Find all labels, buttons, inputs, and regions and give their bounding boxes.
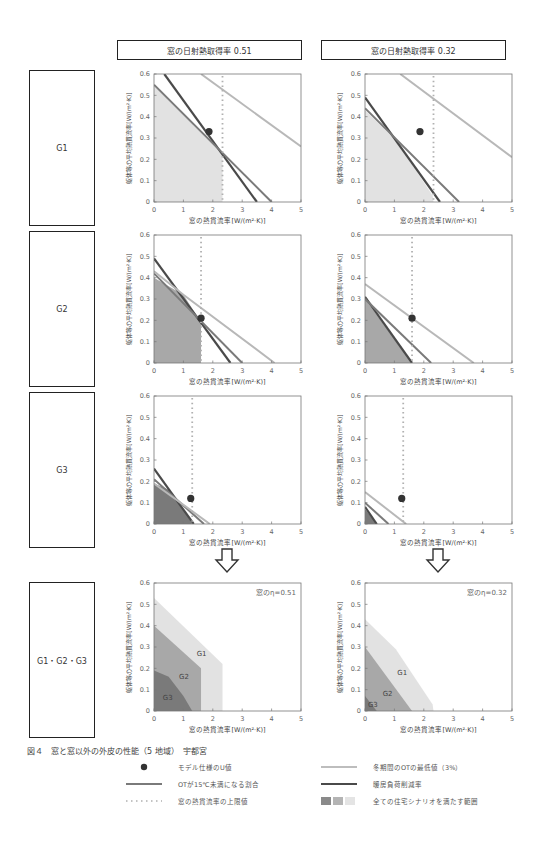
svg-text:1: 1 (181, 715, 185, 723)
svg-text:5: 5 (510, 715, 514, 723)
svg-text:0.6: 0.6 (140, 231, 150, 239)
svg-text:3: 3 (240, 528, 244, 536)
x-axis-label: 窓の熱貫流率[W/(m²·K)] (189, 725, 265, 734)
model-point-dot (398, 495, 405, 502)
svg-text:0.6: 0.6 (351, 579, 361, 587)
svg-text:0.5: 0.5 (140, 253, 150, 261)
svg-text:0.3: 0.3 (351, 456, 361, 464)
svg-text:0.1: 0.1 (140, 177, 150, 185)
x-axis-label: 窓の熱貫流率[W/(m²·K)] (189, 538, 265, 547)
dark-line-icon (321, 780, 357, 788)
svg-text:0.4: 0.4 (351, 274, 361, 282)
svg-text:0.3: 0.3 (140, 134, 150, 142)
svg-text:0: 0 (152, 715, 156, 723)
model-point-dot (205, 128, 212, 135)
svg-text:0.1: 0.1 (140, 338, 150, 346)
chart-g1-eta051: 01234500.10.20.30.40.50.6窓の熱貫流率[W/(m²·K)… (118, 68, 308, 228)
y-axis-label: 躯体等の平均熱貫流率[W/(m²·K)] (125, 92, 133, 183)
svg-text:5: 5 (510, 367, 514, 375)
y-axis-label: 躯体等の平均熱貫流率[W/(m²·K)] (336, 601, 344, 692)
chart-g3-eta051: 01234500.10.20.30.40.50.6窓の熱貫流率[W/(m²·K)… (118, 390, 308, 550)
svg-text:0.1: 0.1 (351, 338, 361, 346)
svg-text:3: 3 (240, 715, 244, 723)
svg-text:0.2: 0.2 (140, 478, 150, 486)
legend-item-feasible-range: 全ての住宅シナリオを満たす範囲 (321, 796, 478, 806)
svg-text:1: 1 (392, 715, 396, 723)
chart-svg: 01234500.10.20.30.40.50.6窓の熱貫流率[W/(m²·K)… (329, 577, 519, 742)
legend-item-ot-min: 冬期間のOTの最低値（3%） (321, 762, 462, 772)
svg-text:3: 3 (451, 206, 455, 214)
chart-svg: 01234500.10.20.30.40.50.6窓の熱貫流率[W/(m²·K)… (329, 229, 519, 394)
svg-text:5: 5 (510, 206, 514, 214)
y-axis-label: 躯体等の平均熱貫流率[W/(m²·K)] (125, 601, 133, 692)
svg-text:0: 0 (363, 715, 367, 723)
svg-text:2: 2 (211, 528, 215, 536)
chart-svg: 01234500.10.20.30.40.50.6窓の熱貫流率[W/(m²·K)… (329, 68, 519, 233)
x-axis-label: 窓の熱貫流率[W/(m²·K)] (400, 538, 476, 547)
feasible-area (154, 483, 192, 524)
svg-text:1: 1 (181, 367, 185, 375)
svg-text:1: 1 (392, 528, 396, 536)
svg-text:4: 4 (481, 206, 485, 214)
row-label-g2: G2 (29, 231, 95, 387)
down-arrow-icon (214, 548, 240, 574)
column-header-eta-051: 窓の日射熱取得率 0.51 (117, 40, 302, 60)
light-line (201, 74, 301, 147)
chart-g2-eta051: 01234500.10.20.30.40.50.6窓の熱貫流率[W/(m²·K)… (118, 229, 308, 389)
y-axis-label: 躯体等の平均熱貫流率[W/(m²·K)] (336, 92, 344, 183)
light-line-icon (321, 763, 357, 771)
chart-svg: 01234500.10.20.30.40.50.6窓の熱貫流率[W/(m²·K)… (118, 577, 308, 742)
column-header-eta-032: 窓の日射熱取得率 0.32 (321, 40, 506, 60)
svg-text:4: 4 (270, 528, 274, 536)
legend-label: OTが15℃未満になる割合 (178, 779, 259, 789)
region-label: G2 (179, 673, 189, 681)
svg-text:2: 2 (422, 367, 426, 375)
svg-text:4: 4 (270, 367, 274, 375)
svg-text:0: 0 (363, 528, 367, 536)
chart-svg: 01234500.10.20.30.40.50.6窓の熱貫流率[W/(m²·K)… (329, 390, 519, 555)
svg-text:2: 2 (211, 206, 215, 214)
svg-text:0.4: 0.4 (140, 113, 150, 121)
y-axis-label: 躯体等の平均熱貫流率[W/(m²·K)] (125, 253, 133, 344)
y-axis-label: 躯体等の平均熱貫流率[W/(m²·K)] (125, 414, 133, 505)
svg-text:1: 1 (392, 367, 396, 375)
svg-text:0.6: 0.6 (140, 70, 150, 78)
svg-text:0.5: 0.5 (140, 414, 150, 422)
chart-g1-eta032: 01234500.10.20.30.40.50.6窓の熱貫流率[W/(m²·K)… (329, 68, 519, 228)
svg-text:1: 1 (181, 206, 185, 214)
svg-text:0: 0 (146, 198, 150, 206)
svg-text:0.2: 0.2 (140, 317, 150, 325)
chart-svg: 01234500.10.20.30.40.50.6窓の熱貫流率[W/(m²·K)… (118, 229, 308, 394)
area-swatches-icon (321, 797, 357, 805)
legend-label: 暖房負荷削減率 (373, 779, 422, 789)
svg-text:0.3: 0.3 (351, 134, 361, 142)
svg-text:0: 0 (152, 528, 156, 536)
down-arrow-icon (425, 548, 451, 574)
chart-all-eta032: 01234500.10.20.30.40.50.6窓の熱貫流率[W/(m²·K)… (329, 577, 519, 737)
svg-text:0.2: 0.2 (351, 317, 361, 325)
svg-text:0.3: 0.3 (140, 456, 150, 464)
svg-text:0.4: 0.4 (140, 435, 150, 443)
svg-text:0: 0 (152, 206, 156, 214)
svg-text:0.4: 0.4 (351, 622, 361, 630)
svg-text:4: 4 (481, 367, 485, 375)
svg-text:0.1: 0.1 (351, 686, 361, 694)
svg-text:0.5: 0.5 (351, 414, 361, 422)
svg-text:2: 2 (211, 367, 215, 375)
svg-text:0.3: 0.3 (140, 295, 150, 303)
region-label: G1 (197, 650, 207, 658)
svg-text:0: 0 (146, 359, 150, 367)
y-axis-label: 躯体等の平均熱貫流率[W/(m²·K)] (336, 414, 344, 505)
svg-text:2: 2 (422, 206, 426, 214)
svg-text:0.2: 0.2 (140, 665, 150, 673)
svg-text:0.6: 0.6 (140, 579, 150, 587)
svg-text:0.4: 0.4 (140, 622, 150, 630)
svg-text:0.2: 0.2 (140, 156, 150, 164)
legend-label: 全ての住宅シナリオを満たす範囲 (373, 796, 478, 806)
legend-label: モデル仕様のU値 (178, 762, 232, 772)
legend-item-ot-ratio: OTが15℃未満になる割合 (126, 779, 259, 789)
svg-text:4: 4 (270, 715, 274, 723)
dotted-line-icon (126, 797, 162, 805)
eta-annotation: 窓のη=0.32 (467, 588, 507, 597)
svg-text:0.1: 0.1 (140, 499, 150, 507)
